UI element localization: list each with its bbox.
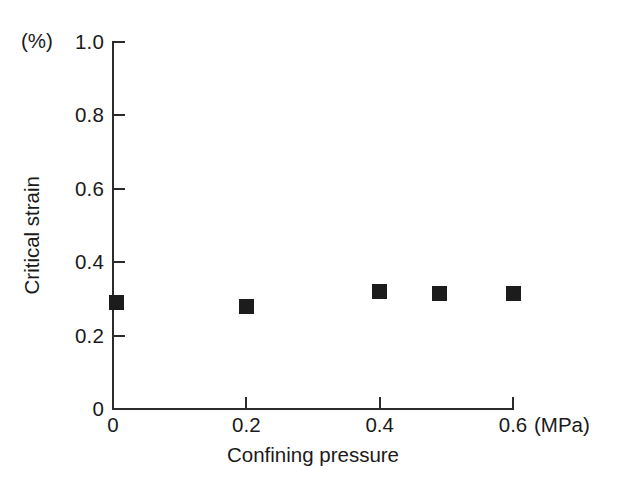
x-tick-label: 0 [83,415,143,436]
x-tick-mark [112,397,114,408]
y-tick-mark [114,114,125,116]
y-tick-mark [114,188,125,190]
y-axis-line [112,41,114,410]
x-tick-mark [379,397,381,408]
data-point-marker [372,284,387,299]
x-tick-label: 0.4 [350,415,410,436]
y-axis-title: Critical strain [22,140,43,330]
x-tick-label: 0.2 [216,415,276,436]
y-tick-mark [114,41,125,43]
x-tick-mark [512,397,514,408]
y-tick-label: 0.2 [58,326,104,347]
x-axis-line [112,408,514,410]
chart-figure: (%) (MPa) Critical strain Confining pres… [0,0,623,489]
data-point-marker [109,295,124,310]
data-point-marker [506,286,521,301]
y-axis-unit-label: (%) [21,31,53,52]
data-point-marker [239,299,254,314]
y-tick-mark [114,261,125,263]
x-axis-title: Confining pressure [113,445,513,466]
y-tick-label: 0.4 [58,252,104,273]
data-point-marker [432,286,447,301]
x-tick-mark [245,397,247,408]
y-tick-label: 1.0 [58,32,104,53]
y-tick-label: 0.6 [58,179,104,200]
y-tick-label: 0.8 [58,105,104,126]
y-tick-mark [114,335,125,337]
x-tick-label: 0.6 [483,415,543,436]
